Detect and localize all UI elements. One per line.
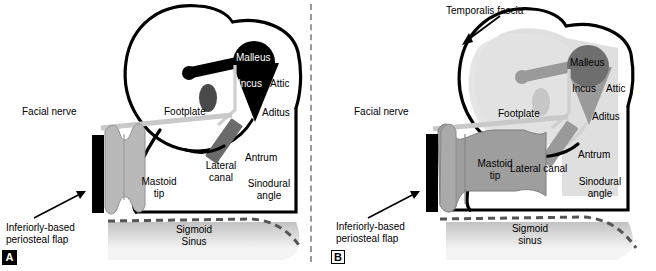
label-aditus-b: Aditus [592, 111, 620, 122]
label-attic-b: Attic [606, 83, 625, 94]
label-facial-nerve-b: Facial nerve [354, 106, 408, 117]
label-facial-nerve-a: Facial nerve [22, 106, 76, 117]
label-malleus-b: Malleus [570, 57, 604, 68]
label-sinodural-line1-b: Sinodural [568, 176, 632, 187]
label-temporalis-fascia-b: Temporalis fascia [446, 5, 523, 16]
label-aditus-a: Aditus [262, 107, 290, 118]
periosteal-flap-arrow-a [34, 191, 86, 218]
label-sigmoid-line2-a: Sinus [164, 236, 224, 247]
label-malleus-a: Malleus [236, 52, 270, 63]
label-sinodural-line2-a: angle [238, 190, 300, 201]
sigmoid-sinus-mass-b-fade [446, 248, 632, 260]
label-lateral-canal-line1-a: Lateral [199, 160, 243, 171]
label-sigmoid-line1-a: Sigmoid [164, 224, 224, 235]
label-sinodural-line2-b: angle [568, 188, 632, 199]
malleus-handle-ball-a [182, 66, 196, 80]
periosteal-flap-arrow-b [368, 191, 420, 218]
label-periosteal-line2-b: periosteal flap [336, 233, 398, 244]
label-incus-a: Incus [238, 78, 262, 89]
mastoid-tip-flap-tail-b [440, 124, 456, 212]
label-periosteal-line1-b: Inferiorly-based [336, 221, 405, 232]
label-antrum-a: Antrum [245, 152, 277, 163]
label-mastoid-line2-a: tip [132, 188, 186, 199]
periosteal-flap-bar-b [426, 134, 438, 212]
label-periosteal-line2-a: periosteal flap [6, 234, 68, 245]
label-footplate-b: Footplate [498, 108, 540, 119]
panel-b: Temporalis fascia Facial nerve Footplate… [328, 0, 656, 271]
label-attic-a: Attic [270, 78, 289, 89]
panel-divider [310, 4, 312, 262]
label-mastoid-line1-a: Mastoid [132, 176, 186, 187]
sigmoid-sinus-mass-a-fade [108, 248, 298, 260]
mastoid-tip-flap-a [105, 124, 145, 214]
label-antrum-b: Antrum [578, 149, 610, 160]
label-sigmoid-line1-b: Sigmoid [500, 223, 560, 234]
label-mastoid-line1-b: Mastoid [468, 158, 522, 169]
panel-a: Facial nerve Footplate Malleus Incus Att… [0, 0, 328, 271]
label-incus-b: Incus [572, 83, 596, 94]
label-periosteal-line1-a: Inferiorly-based [6, 222, 75, 233]
figure-canvas: Facial nerve Footplate Malleus Incus Att… [0, 0, 656, 271]
panel-tag-b: B [331, 250, 345, 264]
label-sinodural-line1-a: Sinodural [238, 178, 300, 189]
panel-tag-a: A [2, 250, 17, 265]
label-lateral-canal-line2-a: canal [199, 172, 243, 183]
label-footplate-a: Footplate [164, 106, 206, 117]
label-mastoid-line2-b: tip [468, 170, 522, 181]
periosteal-flap-bar-a [92, 135, 104, 213]
label-sigmoid-line2-b: sinus [500, 235, 560, 246]
malleus-handle-ball-b [515, 70, 529, 84]
